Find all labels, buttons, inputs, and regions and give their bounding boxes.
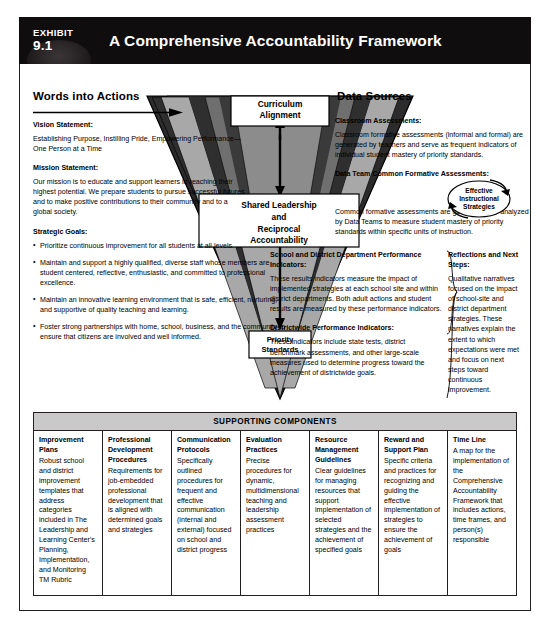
supporting-column-reward-and-support: Reward and Support Plan Specific criteri… [379,431,448,595]
list-item: Prioritize continuous improvement for al… [33,241,248,251]
box-line: Reciprocal [258,224,301,234]
school-indicators-label: School and District Department Performan… [270,250,442,270]
exhibit-header: EXHIBIT 9.1 A Comprehensive Accountabili… [19,17,531,64]
data-sources-heading: Data Sources [337,90,412,102]
reflections-block: Reflections and Next Steps: [448,250,520,270]
indicators-and-reflections: School and District Department Performan… [270,250,531,404]
strategic-goals-list: Prioritize continuous improvement for al… [33,241,248,343]
column-title: Resource Management Guidelines [315,436,373,466]
classroom-assessments-block: Classroom Assessments: [335,116,531,126]
curly-brace-icon [446,250,458,400]
data-sources-column: Classroom Assessments: Classroom formati… [335,116,531,183]
mission-statement-block: Mission Statement: [33,163,248,173]
list-item: Maintain an innovative learning environm… [33,295,286,315]
eis-line-3: Strategies [463,203,495,211]
column-body: Clear guidelines for managing resources … [315,467,373,556]
strategic-goals-label: Strategic Goals: [33,227,248,237]
box-line: Shared Leadership [241,200,316,210]
supporting-column-communication-protocols: Communication Protocols Specifically out… [172,431,241,595]
column-body: Robust school and district improvement t… [39,457,97,586]
reflections-column: Reflections and Next Steps: Qualitative … [448,250,520,404]
box-line: Curriculum [258,99,303,109]
column-title: Improvement Plans [39,436,97,456]
list-item: Maintain and support a highly qualified,… [33,258,286,288]
column-body: Requirements for job-embedded profession… [108,467,166,536]
exhibit-page: EXHIBIT 9.1 A Comprehensive Accountabili… [0,0,550,627]
column-title: Communication Protocols [177,436,235,456]
exhibit-number: 9.1 [33,38,103,53]
eis-line-1: Effective [465,187,493,195]
box-line: Accountability [250,235,308,245]
column-title: Reward and Support Plan [384,436,442,456]
box-line: Alignment [260,110,301,120]
effective-instructional-strategies: Effective Instructional Strategies [442,176,516,222]
effective-strategies-text: Effective Instructional Strategies [442,176,516,222]
column-body: Precise procedures for dynamic, multidim… [246,457,304,536]
column-body: A map for the implementation of the Comp… [453,447,511,546]
performance-indicators-column: School and District Department Performan… [270,250,442,404]
strategic-goals-block: Strategic Goals: [33,227,248,237]
supporting-column-resource-management: Resource Management Guidelines Clear gui… [310,431,379,595]
vision-statement-text: Establishing Purpose, Instilling Pride, … [33,134,248,154]
supporting-components-title: SUPPORTING COMPONENTS [34,413,516,431]
supporting-column-professional-development: Professional Development Procedures Requ… [103,431,172,595]
vision-statement-block: Vision Statement: [33,120,248,130]
supporting-column-evaluation-practices: Evaluation Practices Precise procedures … [241,431,310,595]
column-body: Specific criteria and practices for reco… [384,457,442,556]
school-indicators-text: These results indicators measure the imp… [270,274,442,314]
supporting-column-time-line: Time Line A map for the implementation o… [448,431,516,595]
words-into-actions-arrow [33,108,183,117]
words-into-actions-heading: Words into Actions [33,90,140,102]
mission-statement-text: Our mission is to educate and support le… [33,177,248,217]
column-title: Professional Development Procedures [108,436,166,466]
exhibit-number-block: EXHIBIT 9.1 [19,28,103,54]
vision-statement-label: Vision Statement: [33,120,248,130]
school-indicators-block: School and District Department Performan… [270,250,442,270]
reflections-label: Reflections and Next Steps: [448,250,520,270]
mission-statement-label: Mission Statement: [33,163,248,173]
list-item: Foster strong partnerships with home, sc… [33,322,286,342]
reflections-text: Qualitative narratives focused on the im… [448,274,520,395]
districtwide-indicators-block: Districtwide Performance Indicators: [270,323,442,333]
supporting-components-panel: SUPPORTING COMPONENTS Improvement Plans … [33,412,517,596]
classroom-assessments-text: Classroom formative assessments (informa… [335,130,531,160]
districtwide-indicators-label: Districtwide Performance Indicators: [270,323,442,333]
box-line: and [272,212,287,222]
supporting-column-improvement-plans: Improvement Plans Robust school and dist… [34,431,103,595]
districtwide-indicators-text: These indicators include state tests, di… [270,337,442,377]
diagram-body: Curriculum Alignment Shared Leadership a… [19,64,531,611]
column-title: Time Line [453,436,511,446]
exhibit-word: EXHIBIT [33,28,103,39]
classroom-assessments-label: Classroom Assessments: [335,116,531,126]
page-title: A Comprehensive Accountability Framework [109,32,442,50]
column-title: Evaluation Practices [246,436,304,456]
eis-line-2: Instructional [459,195,499,203]
supporting-components-columns: Improvement Plans Robust school and dist… [34,431,516,595]
column-body: Specifically outlined procedures for fre… [177,457,235,556]
words-into-actions-column: Vision Statement: Establishing Purpose, … [33,120,248,349]
